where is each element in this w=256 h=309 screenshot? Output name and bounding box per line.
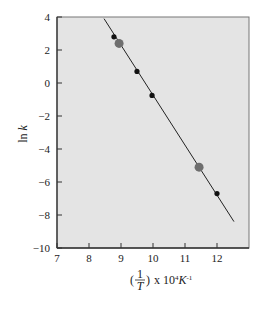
y-tick-label: −4 [38, 143, 50, 155]
data-point [111, 34, 116, 39]
x-tick-label: 12 [212, 252, 223, 264]
x-axis-title-denominator: T [137, 279, 145, 293]
y-tick-label: −10 [33, 242, 51, 254]
x-axis-title: ( 1 T ) x 104K-1 [130, 267, 193, 293]
y-tick-label: −8 [38, 209, 50, 221]
x-tick-label: 10 [148, 252, 160, 264]
data-point [134, 69, 139, 74]
y-tick-label: −6 [38, 176, 50, 188]
data-point [149, 93, 154, 98]
y-tick-label: 4 [45, 11, 51, 23]
chart-canvas: 420−2−4−6−8−10 789101112 ln k ( 1 T ) x … [0, 0, 256, 309]
y-axis-title: ln k [16, 124, 30, 142]
y-tick-label: 0 [45, 77, 51, 89]
data-point [214, 191, 219, 196]
plot-area [57, 17, 249, 248]
x-tick-label: 11 [180, 252, 191, 264]
x-tick-label: 7 [54, 252, 60, 264]
x-axis-title-suffix: x 104K-1 [154, 273, 193, 287]
highlighted-data-point [115, 39, 124, 48]
x-tick-label: 8 [86, 252, 92, 264]
highlighted-data-point [195, 163, 204, 172]
y-tick-label: 2 [45, 44, 51, 56]
x-tick-label: 9 [118, 252, 124, 264]
x-axis-title-paren-open: ( [130, 273, 134, 287]
y-tick-label: −2 [38, 110, 50, 122]
x-axis-title-paren-close: ) [146, 273, 150, 287]
